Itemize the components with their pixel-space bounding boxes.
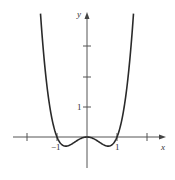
tick-label-pos1: 1 xyxy=(115,142,120,152)
tick-label-neg1: −1 xyxy=(51,142,61,152)
x-axis-label: x xyxy=(160,142,165,152)
y-axis-label: y xyxy=(76,9,81,19)
tick-label-y1: 1 xyxy=(77,102,82,112)
function-plot: −1 1 1 x y xyxy=(0,0,175,180)
x-axis-arrow-icon xyxy=(159,135,166,140)
y-axis-arrow-icon xyxy=(85,12,90,19)
